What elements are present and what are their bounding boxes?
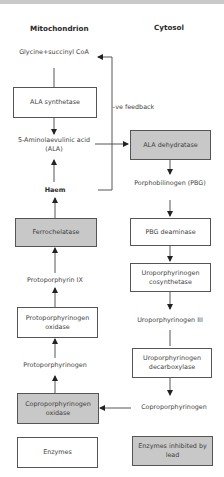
protoporphyrinogen-label: Protoporphyrinogen (10, 361, 100, 370)
ala-label: 5-Aminolaevulinic acid (ALA) (9, 136, 99, 153)
legend-enzymes: Enzymes (17, 437, 98, 468)
uroporphyrinogen-decarboxylase-box: Uroporphyrinogen decarboxylase (132, 348, 212, 378)
protoporphyrin-ix-label: Protoporphyrin IX (10, 276, 100, 285)
porphobilinogen-label: Porphobilinogen (PBG) (130, 179, 210, 188)
ferrochelatase-box: Ferrochelatase (15, 218, 97, 247)
cytosol-header: Cytosol (154, 23, 184, 32)
coproporphyrinogen-label: Coproporphyrinogen (132, 403, 216, 412)
mitochondrion-header: Mitochondrion (30, 24, 89, 33)
coproporphyrinogen-oxidase-box: Coproporphyrinogen oxidase (17, 393, 99, 424)
uroporphyrinogen-cosynthetase-box: Uroporphyrinogen cosynthetase (130, 263, 211, 292)
uroporphyrinogen-iii-label: Uroporphyrinogen III (125, 316, 215, 325)
pbg-deaminase-box: PBG deaminase (130, 218, 211, 246)
ala-synthetase-box: ALA synthetase (13, 87, 97, 118)
glycine-succinyl-coa: Glycine+succinyl CoA (14, 48, 94, 57)
negative-feedback-label: –ve feedback (112, 103, 154, 112)
ala-dehydratase-box: ALA dehydratase (130, 130, 211, 160)
protoporphyrinogen-oxidase-box: Protoporphyrinogen oxidase (17, 307, 98, 338)
haem-label: Haem (35, 186, 75, 195)
legend-enzymes-inhibited-by-lead: Enzymes inhibited by lead (132, 436, 213, 466)
